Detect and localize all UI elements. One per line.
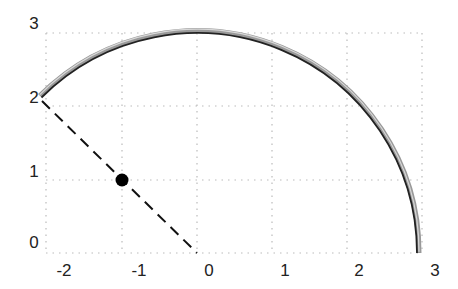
x-tick-neg1: -1 xyxy=(131,261,146,280)
y-axis-labels: 3 2 1 0 xyxy=(29,14,38,252)
y-tick-1: 1 xyxy=(29,162,38,181)
x-tick-neg2: -2 xyxy=(56,261,71,280)
chart: 3 2 1 0 -2 -1 0 1 2 3 xyxy=(0,0,458,289)
data-point xyxy=(116,174,129,187)
y-tick-3: 3 xyxy=(29,14,38,33)
x-axis-labels: -2 -1 0 1 2 3 xyxy=(56,261,439,280)
grid xyxy=(46,33,422,253)
arc-series xyxy=(40,29,419,253)
x-tick-0: 0 xyxy=(204,261,213,280)
x-tick-3: 3 xyxy=(430,261,439,280)
x-tick-2: 2 xyxy=(354,261,363,280)
y-tick-2: 2 xyxy=(29,88,38,107)
x-tick-1: 1 xyxy=(280,261,289,280)
y-tick-0: 0 xyxy=(29,233,38,252)
